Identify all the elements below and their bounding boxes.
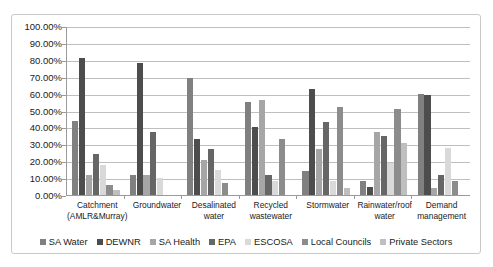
bar — [86, 175, 92, 195]
x-axis-category-label: Groundwater — [129, 200, 186, 232]
bar — [394, 109, 400, 195]
bar — [194, 139, 200, 195]
chart-legend: SA WaterDEWNRSA HealthEPAESCOSALocal Cou… — [11, 234, 481, 250]
bar-group — [125, 27, 183, 195]
x-axis-tick — [411, 195, 412, 199]
x-axis-labels: Catchment(AMLR&Murray)GroundwaterDesalin… — [66, 200, 470, 232]
bar — [330, 181, 336, 195]
bar — [150, 132, 156, 195]
legend-label: DEWNR — [106, 237, 141, 247]
y-axis-labels: 100.00%90.00%80.00%70.00%60.00%50.00%40.… — [12, 20, 62, 203]
bar — [360, 181, 366, 195]
bar — [72, 121, 78, 195]
bar — [323, 122, 329, 195]
legend-swatch-icon — [40, 239, 46, 245]
bar — [265, 175, 271, 195]
x-axis-category-label: Stormwater — [299, 200, 356, 232]
bar — [367, 187, 373, 195]
bar-group — [297, 27, 355, 195]
x-axis-tick — [296, 195, 297, 199]
y-axis-tick-label: 40.00% — [12, 123, 62, 133]
bar — [424, 95, 430, 195]
x-axis-category-label: Demandmanagement — [413, 200, 470, 232]
bar — [201, 160, 207, 195]
bar — [344, 188, 350, 195]
bar — [79, 58, 85, 195]
chart-container: 100.00%90.00%80.00%70.00%60.00%50.00%40.… — [0, 0, 493, 267]
y-axis-tick — [62, 196, 66, 197]
legend-item[interactable]: Local Councils — [302, 237, 371, 247]
legend-label: SA Health — [159, 237, 200, 247]
legend-swatch-icon — [209, 239, 215, 245]
x-axis-category-label: Catchment(AMLR&Murray) — [66, 200, 129, 232]
x-axis-tick — [181, 195, 182, 199]
y-axis-tick-label: 0.00% — [12, 191, 62, 201]
bar — [381, 136, 387, 195]
y-axis-tick-label: 50.00% — [12, 107, 62, 117]
bar — [106, 185, 112, 195]
bar — [113, 190, 119, 195]
bar — [445, 148, 451, 195]
bar — [337, 107, 343, 195]
bar — [438, 175, 444, 195]
bar — [100, 165, 106, 195]
bar — [316, 149, 322, 195]
bar — [374, 132, 380, 195]
bar — [215, 170, 221, 195]
y-axis-tick-label: 90.00% — [12, 39, 62, 49]
bar — [93, 154, 99, 195]
legend-label: Private Sectors — [389, 237, 452, 247]
legend-swatch-icon — [150, 239, 156, 245]
legend-swatch-icon — [245, 239, 251, 245]
y-axis-tick-label: 100.00% — [12, 22, 62, 32]
x-axis-tick — [239, 195, 240, 199]
x-axis-tick — [124, 195, 125, 199]
bar-group — [240, 27, 298, 195]
plot-area — [66, 27, 470, 196]
legend-item[interactable]: SA Health — [150, 237, 200, 247]
x-axis-category-label: Recycledwastewater — [242, 200, 299, 232]
bar-group — [67, 27, 125, 195]
bar-group — [412, 27, 470, 195]
legend-swatch-icon — [380, 239, 386, 245]
bar — [157, 178, 163, 195]
legend-swatch-icon — [97, 239, 103, 245]
y-axis-tick-label: 60.00% — [12, 90, 62, 100]
bar — [208, 149, 214, 195]
bar — [418, 94, 424, 195]
bar — [302, 171, 308, 195]
legend-label: ESCOSA — [254, 237, 293, 247]
bar — [401, 143, 407, 195]
legend-item[interactable]: Private Sectors — [380, 237, 452, 247]
bar — [143, 175, 149, 195]
bar — [137, 63, 143, 195]
y-axis-tick-label: 30.00% — [12, 140, 62, 150]
bar — [387, 163, 393, 195]
bar — [272, 181, 278, 195]
y-axis-tick-label: 80.00% — [12, 56, 62, 66]
bar — [279, 139, 285, 195]
bar — [309, 89, 315, 195]
legend-label: SA Water — [49, 237, 88, 247]
bar — [431, 188, 437, 195]
legend-item[interactable]: DEWNR — [97, 237, 141, 247]
y-axis-tick-label: 70.00% — [12, 73, 62, 83]
legend-item[interactable]: ESCOSA — [245, 237, 293, 247]
bar — [245, 102, 251, 195]
bar-group — [355, 27, 413, 195]
y-axis-tick-label: 10.00% — [12, 174, 62, 184]
legend-label: Local Councils — [311, 237, 371, 247]
legend-swatch-icon — [302, 239, 308, 245]
legend-item[interactable]: SA Water — [40, 237, 88, 247]
x-axis-tick — [354, 195, 355, 199]
legend-item[interactable]: EPA — [209, 237, 236, 247]
bar — [187, 78, 193, 195]
bar — [252, 127, 258, 195]
bar — [452, 181, 458, 195]
bar — [259, 100, 265, 195]
bar-groups — [67, 27, 470, 195]
y-axis-tick-label: 20.00% — [12, 157, 62, 167]
bar — [130, 175, 136, 195]
bar — [222, 183, 228, 195]
legend-label: EPA — [218, 237, 236, 247]
